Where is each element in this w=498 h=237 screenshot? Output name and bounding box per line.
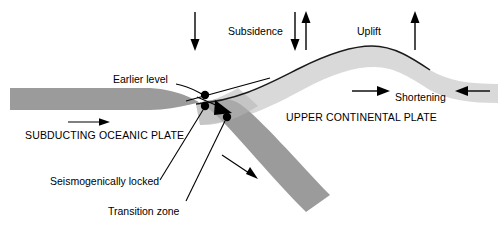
label-earlier-level: Earlier level bbox=[113, 73, 168, 85]
oceanic-convergence-arrow bbox=[68, 118, 110, 126]
subsidence-down-arrow-left bbox=[191, 12, 200, 51]
locked-zone-point bbox=[201, 102, 209, 110]
subducting-oceanic-plate-body bbox=[10, 88, 330, 212]
earlier-level-leader bbox=[176, 84, 202, 94]
uplift-up-arrow-right bbox=[411, 11, 420, 50]
subsidence-down-arrow-right bbox=[291, 12, 300, 51]
shortening-arrow-right bbox=[352, 86, 390, 96]
transition-zone-leader bbox=[186, 121, 225, 201]
label-uplift: Uplift bbox=[357, 25, 381, 37]
seismogenically-locked-leader bbox=[160, 110, 203, 180]
uplift-up-arrow-inner bbox=[302, 11, 311, 50]
label-transition-zone: Transition zone bbox=[108, 205, 180, 217]
label-subsidence: Subsidence bbox=[228, 25, 283, 37]
subduction-zone-diagram: Subsidence Uplift Shortening Earlier lev… bbox=[0, 0, 498, 237]
label-upper-continental-plate: UPPER CONTINENTAL PLATE bbox=[286, 111, 437, 123]
label-shortening: Shortening bbox=[395, 91, 446, 103]
slab-descent-arrow bbox=[222, 155, 258, 179]
label-seismogenically-locked: Seismogenically locked bbox=[50, 175, 159, 187]
label-subducting-oceanic-plate: SUBDUCTING OCEANIC PLATE bbox=[25, 129, 184, 141]
vertical-motion-arrows bbox=[191, 11, 420, 51]
transition-zone-point bbox=[223, 113, 231, 121]
earlier-level-point bbox=[201, 91, 209, 99]
